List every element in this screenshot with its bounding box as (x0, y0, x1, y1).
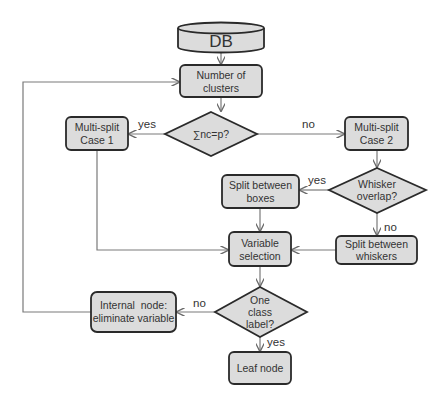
node-split-between-boxes: Split between boxes (222, 175, 299, 208)
case2-label-line1: Multi-split (354, 121, 398, 133)
edge-label-sum-yes: yes (138, 118, 156, 130)
case1-label-line2: Case 1 (80, 134, 113, 146)
db-label: DB (209, 32, 233, 51)
oneclass-label-line2: class (248, 306, 272, 318)
case1-label-line1: Multi-split (75, 121, 119, 133)
node-multisplit-case1: Multi-split Case 1 (66, 117, 128, 150)
clusters-label-line1: Number of (196, 69, 245, 81)
edge-label-whisker-no: no (384, 221, 397, 233)
node-multisplit-case2: Multi-split Case 2 (345, 117, 408, 150)
edge-label-sum-no: no (302, 118, 315, 130)
boxes-label-line2: boxes (246, 192, 274, 204)
leaf-label: Leaf node (237, 362, 284, 374)
clusters-label-line2: clusters (203, 82, 239, 94)
varsel-label-line2: selection (239, 250, 281, 262)
node-sum-nc-eq-p: ∑nc=p? (165, 112, 257, 156)
varsel-label-line1: Variable (241, 237, 279, 249)
edge-label-oneclass-no: no (193, 297, 206, 309)
node-split-between-whiskers: Split between whiskers (336, 236, 417, 264)
node-db: DB (178, 23, 264, 53)
sum-condition-label: ∑nc=p? (193, 128, 230, 140)
boxes-label-line1: Split between (229, 179, 292, 191)
edge-label-whisker-yes: yes (308, 174, 326, 186)
whiskers-label-line1: Split between (345, 238, 408, 250)
whisker-label-line2: overlap? (357, 190, 397, 202)
edge-case1-to-varsel (97, 150, 228, 250)
node-number-of-clusters: Number of clusters (180, 65, 262, 97)
node-leaf-node: Leaf node (229, 352, 291, 384)
flowchart-canvas: DB Number of clusters ∑nc=p? Multi-split… (0, 0, 447, 405)
oneclass-label-line1: One (250, 294, 270, 306)
node-internal-node: Internal node: eliminate variable (91, 292, 176, 332)
edge-label-oneclass-yes: yes (267, 336, 285, 348)
node-whisker-overlap: Whisker overlap? (329, 168, 426, 213)
node-variable-selection: Variable selection (229, 232, 291, 266)
internal-label-line1: Internal node: (100, 299, 167, 311)
oneclass-label-line3: label? (246, 318, 274, 330)
internal-label-line2: eliminate variable (93, 312, 175, 324)
case2-label-line2: Case 2 (360, 134, 393, 146)
whiskers-label-line2: whiskers (355, 250, 397, 262)
whisker-label-line1: Whisker (358, 178, 396, 190)
node-one-class-label: One class label? (215, 287, 307, 337)
